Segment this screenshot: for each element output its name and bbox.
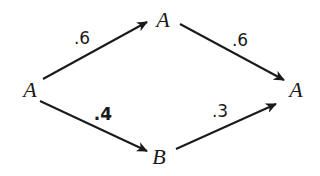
- edge-label-start-top: .6: [74, 30, 90, 47]
- edge-label-start-bottom: .4: [94, 106, 112, 123]
- edge-label-top-end: .6: [232, 32, 248, 49]
- probability-diagram: A A B A .6 .6 .4 .3: [0, 0, 320, 176]
- edge-start-to-top-arrow: [43, 22, 147, 79]
- node-start-a: A: [23, 79, 36, 101]
- edge-label-bottom-end: .3: [212, 103, 228, 120]
- node-end-a: A: [289, 79, 302, 101]
- node-bottom-b: B: [152, 146, 165, 168]
- node-top-a: A: [156, 9, 169, 31]
